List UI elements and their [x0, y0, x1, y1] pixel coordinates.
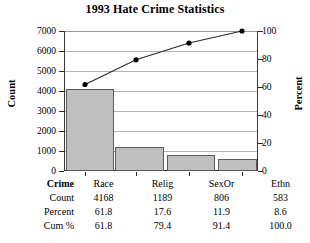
cumulative-marker-ethn	[239, 28, 244, 33]
table-row: Percent 61.8 17.6 11.9 8.6	[0, 205, 310, 219]
table-header-row: Crime Race Relig SexOr Ethn	[0, 177, 310, 191]
count-sexor: 806	[192, 191, 251, 205]
percent-race: 61.8	[74, 205, 133, 219]
cumulative-marker-race	[82, 82, 87, 87]
cum-percent-sexor: 91.4	[192, 219, 251, 233]
x-axis-label-relig: Relig	[133, 177, 192, 191]
count-ethn: 583	[251, 191, 310, 205]
row-label-percent: Percent	[0, 205, 74, 219]
row-label-count: Count	[0, 191, 74, 205]
pareto-chart-figure: 1993 Hate Crime Statistics 7000 6000 500…	[0, 0, 310, 243]
cum-percent-relig: 79.4	[133, 219, 192, 233]
x-tick-race	[85, 172, 86, 176]
x-axis-label-sexor: SexOr	[192, 177, 251, 191]
percent-relig: 17.6	[133, 205, 192, 219]
cum-percent-ethn: 100.0	[251, 219, 310, 233]
x-tick-relig	[136, 172, 137, 176]
cumulative-marker-sexor	[186, 40, 191, 45]
cum-percent-race: 61.8	[74, 219, 133, 233]
table-header-label: Crime	[0, 177, 74, 191]
cumulative-line	[85, 31, 242, 85]
percent-ethn: 8.6	[251, 205, 310, 219]
cumulative-marker-relig	[133, 57, 138, 62]
x-tick-ethn	[242, 172, 243, 176]
x-tick-sexor	[189, 172, 190, 176]
x-axis-label-race: Race	[74, 177, 133, 191]
row-label-cum-percent: Cum %	[0, 219, 74, 233]
table-row: Count 4168 1189 806 583	[0, 191, 310, 205]
pareto-data-table: Crime Race Relig SexOr Ethn Count 4168 1…	[0, 177, 310, 233]
x-axis-label-ethn: Ethn	[251, 177, 310, 191]
count-relig: 1189	[133, 191, 192, 205]
count-race: 4168	[74, 191, 133, 205]
percent-sexor: 11.9	[192, 205, 251, 219]
table-row: Cum % 61.8 79.4 91.4 100.0	[0, 219, 310, 233]
